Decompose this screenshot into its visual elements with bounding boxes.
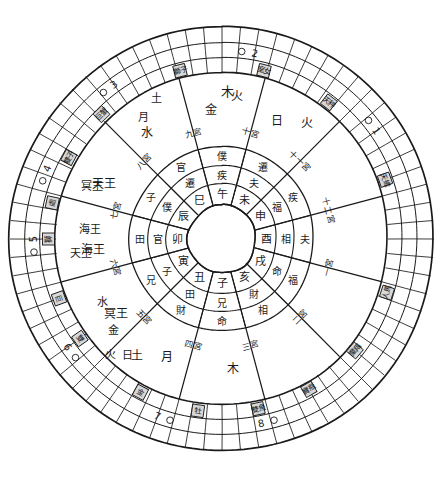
zodiac-sign-box: 獅 xyxy=(43,233,55,245)
planet-glyph: 月 xyxy=(161,350,173,364)
planet-glyph: 土 xyxy=(131,349,143,363)
planet-symbol: 月 xyxy=(138,111,149,124)
palace-name-outer-label: 福 xyxy=(288,274,298,286)
palace-name-outer-label: 財 xyxy=(176,304,186,316)
planet-symbol: 海王 xyxy=(79,222,101,236)
palace-name-label: 疾 xyxy=(217,169,227,181)
palace-name-label: 相 xyxy=(281,233,291,245)
palace-name-outer-label: 遷 xyxy=(258,162,268,173)
palace-name-label: 兄 xyxy=(217,298,227,309)
zodiac-sign-label: 獅 xyxy=(43,235,53,243)
earthly-branch-label: 午 xyxy=(217,188,228,201)
planet-symbol: 天王 xyxy=(70,247,92,260)
palace-name-outer-label: 命 xyxy=(217,315,227,327)
planet-glyph: 水 xyxy=(141,126,153,140)
palace-name-label: 遷 xyxy=(185,178,195,189)
palace-name-label: 福 xyxy=(272,201,282,213)
planet-symbol: 土 xyxy=(151,92,162,105)
earthly-branch-label: 丑 xyxy=(194,271,205,284)
palace-name-outer-label: 田 xyxy=(135,234,145,245)
zodiac-sign-box: 牡 xyxy=(191,404,205,418)
planet-glyph: 木 xyxy=(227,362,239,376)
earthly-branch-label: 申 xyxy=(255,210,266,223)
palace-name-label: 田 xyxy=(185,289,195,300)
earthly-branch-label: 辰 xyxy=(178,210,189,223)
planet-symbol: 火 xyxy=(105,348,116,361)
palace-name-outer-label: 疾 xyxy=(288,191,298,203)
earthly-branch-label: 戌 xyxy=(255,255,266,268)
wheel-svg: 子丑寅卯辰巳午未申酉戌亥兄田子官僕遷疾夫福相命財命財兄田子官僕遷疾夫福相一宮二宮… xyxy=(0,0,447,479)
earthly-branch-label: 未 xyxy=(239,194,250,207)
palace-name-label: 夫 xyxy=(249,178,259,189)
earthly-branch-label: 巳 xyxy=(194,194,205,207)
palace-name-outer-label: 兄 xyxy=(146,275,156,286)
planet-glyph: 火 xyxy=(301,116,313,130)
astrology-wheel-chart: 子丑寅卯辰巳午未申酉戌亥兄田子官僕遷疾夫福相命財命財兄田子官僕遷疾夫福相一宮二宮… xyxy=(0,0,447,479)
palace-name-outer-label: 相 xyxy=(258,304,268,316)
planet-symbol: 木 xyxy=(221,84,234,99)
earthly-branch-label: 亥 xyxy=(239,270,250,284)
palace-name-label: 僕 xyxy=(162,201,172,213)
palace-name-outer-label: 僕 xyxy=(217,150,227,162)
palace-name-label: 官 xyxy=(153,233,163,245)
palace-name-outer-label: 夫 xyxy=(300,234,310,245)
planet-symbol: 水 xyxy=(97,296,108,309)
palace-name-outer-label: 子 xyxy=(146,192,156,203)
planet-symbol: 日 xyxy=(122,349,133,362)
palace-name-outer-label: 官 xyxy=(176,161,186,173)
planet-glyph: 金 xyxy=(205,102,217,117)
palace-name-label: 財 xyxy=(249,288,259,300)
house-number-label: 5 xyxy=(28,236,39,242)
earthly-branch-label: 寅 xyxy=(178,254,189,268)
earthly-branch-label: 酉 xyxy=(261,233,272,246)
planet-symbol: 金 xyxy=(108,323,119,337)
palace-name-label: 子 xyxy=(162,266,172,277)
palace-name-label: 命 xyxy=(272,265,282,277)
planet-glyph: 日 xyxy=(271,114,283,128)
zodiac-sign-box: 處 xyxy=(45,196,59,210)
earthly-branch-label: 子 xyxy=(217,277,228,290)
earthly-branch-label: 卯 xyxy=(172,233,183,246)
planet-symbol: 冥王 xyxy=(81,180,103,193)
